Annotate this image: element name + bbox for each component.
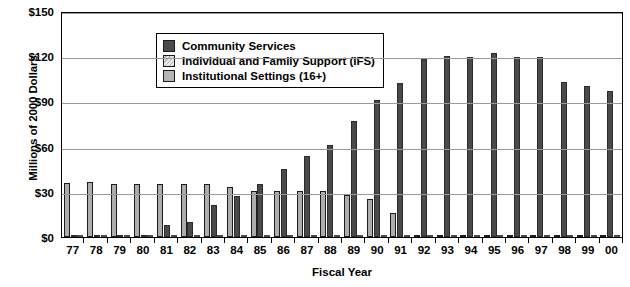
bar	[274, 191, 280, 237]
x-tick-label: 88	[319, 244, 342, 262]
bar	[397, 83, 403, 237]
x-tick-label: 77	[61, 244, 84, 262]
bar	[530, 235, 536, 237]
gridline	[62, 194, 622, 195]
bar	[71, 235, 77, 237]
bar	[264, 235, 270, 237]
bar	[451, 235, 457, 237]
bar	[427, 235, 433, 237]
x-tick-mark	[84, 238, 107, 243]
x-tick-label: 82	[178, 244, 201, 262]
y-axis-tick-labels: $0$30$60$90$120$150	[0, 0, 58, 287]
x-tick-label: 78	[84, 244, 107, 262]
bar	[334, 235, 340, 237]
x-tick-mark	[272, 238, 295, 243]
bar	[591, 235, 597, 237]
bar	[374, 100, 380, 237]
y-tick-label: $0	[41, 232, 54, 244]
y-tick-label: $60	[35, 142, 54, 154]
x-tick-label: 80	[131, 244, 154, 262]
bar	[194, 235, 200, 237]
bar	[241, 235, 247, 237]
bar-group	[552, 13, 575, 237]
gridline	[62, 103, 622, 104]
bar	[134, 184, 140, 237]
x-tick-mark	[202, 238, 225, 243]
bar	[554, 235, 560, 237]
bar	[94, 235, 100, 237]
x-tick-label: 92	[412, 244, 435, 262]
bar	[344, 195, 350, 237]
bar	[157, 184, 163, 237]
x-tick-mark	[178, 238, 201, 243]
x-tick-label: 94	[459, 244, 482, 262]
bar	[101, 235, 107, 237]
bar-group	[459, 13, 482, 237]
bar	[287, 235, 293, 237]
bar	[491, 53, 497, 237]
x-tick-label: 81	[155, 244, 178, 262]
bar-group	[575, 13, 598, 237]
plot-area: Community ServicesIndividual and Family …	[61, 12, 623, 238]
x-tick-mark	[342, 238, 365, 243]
legend-swatch-inst	[163, 70, 175, 82]
y-tick-label: $150	[28, 6, 54, 18]
bar	[584, 86, 590, 237]
legend-item: Individual and Family Support (IFS)	[163, 53, 375, 68]
x-tick-label: 85	[248, 244, 271, 262]
bar-group	[505, 13, 528, 237]
bar-group	[599, 13, 622, 237]
bar	[577, 235, 583, 237]
x-tick-label: 98	[553, 244, 576, 262]
bar	[444, 56, 450, 237]
bar	[467, 57, 473, 237]
bar	[367, 199, 373, 237]
bar	[497, 235, 503, 237]
x-tick-mark	[436, 238, 459, 243]
x-axis-tick-labels: 7778798081828384858687888990919293949596…	[61, 244, 623, 262]
legend-item: Community Services	[163, 38, 375, 53]
bar-chart: Millions of 2000 Dollars $0$30$60$90$120…	[0, 0, 630, 287]
x-tick-mark	[483, 238, 506, 243]
y-tick-label: $90	[35, 96, 54, 108]
legend-swatch-comm	[163, 40, 175, 52]
x-tick-label: 91	[389, 244, 412, 262]
bar-group	[389, 13, 412, 237]
x-tick-mark	[248, 238, 271, 243]
legend-label: Individual and Family Support (IFS)	[182, 55, 375, 67]
bar	[257, 184, 263, 237]
bar	[111, 184, 117, 237]
bar	[460, 235, 466, 237]
x-tick-mark	[295, 238, 318, 243]
bar	[64, 183, 70, 237]
bar	[117, 235, 123, 237]
bar	[567, 235, 573, 237]
bar	[484, 235, 490, 237]
bar	[507, 235, 513, 237]
bar	[251, 191, 257, 237]
x-tick-mark	[412, 238, 435, 243]
bar	[357, 235, 363, 237]
bar	[600, 235, 606, 237]
bar-group	[109, 13, 132, 237]
bar	[234, 196, 240, 237]
legend-item: Institutional Settings (16+)	[163, 68, 375, 83]
bar	[211, 205, 217, 237]
bar	[414, 235, 420, 237]
x-tick-label: 86	[272, 244, 295, 262]
x-tick-mark	[61, 238, 84, 243]
bar	[537, 57, 543, 237]
gridline	[62, 149, 622, 150]
bar-group	[62, 13, 85, 237]
bar	[124, 235, 130, 237]
bar	[181, 184, 187, 237]
x-tick-label: 99	[576, 244, 599, 262]
x-axis-title: Fiscal Year	[61, 266, 623, 278]
bar	[474, 235, 480, 237]
x-tick-mark	[553, 238, 576, 243]
x-tick-label: 90	[365, 244, 388, 262]
bar	[147, 235, 153, 237]
x-tick-mark	[319, 238, 342, 243]
x-tick-mark	[600, 238, 623, 243]
bar-group	[482, 13, 505, 237]
